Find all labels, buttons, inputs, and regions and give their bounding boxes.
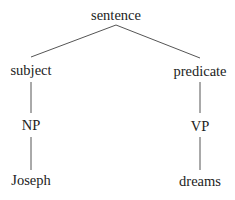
node-predicate: predicate [173,64,226,79]
node-np: NP [22,118,41,133]
node-joseph: Joseph [11,173,50,188]
tree-edges [0,0,235,200]
node-vp: VP [191,119,210,134]
edge-sentence-subject [31,25,116,57]
edge-sentence-predicate [116,25,200,58]
node-subject: subject [10,63,51,78]
node-dreams: dreams [179,174,221,189]
node-sentence: sentence [91,8,141,23]
